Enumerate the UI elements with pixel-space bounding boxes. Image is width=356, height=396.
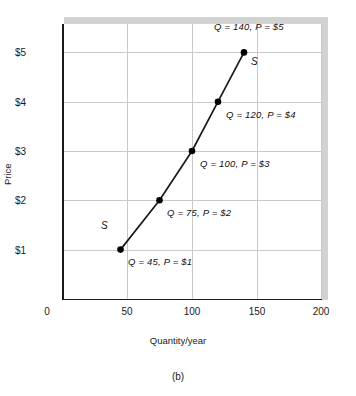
y-tick-label-1: $1 bbox=[15, 244, 26, 255]
data-point-4 bbox=[215, 98, 222, 105]
curve-label-s-upper: S bbox=[251, 56, 258, 67]
y-tick-label-2: $2 bbox=[15, 195, 26, 206]
x-tick-label-200: 200 bbox=[313, 306, 330, 317]
supply-curve-line bbox=[121, 52, 245, 249]
data-point-2 bbox=[156, 197, 163, 204]
x-tick-label-100: 100 bbox=[184, 306, 201, 317]
x-tick-label-50: 50 bbox=[121, 306, 132, 317]
supply-curve-figure: S S Q = 45, P = $1 Q = 75, P = $2 Q = 10… bbox=[0, 0, 356, 396]
annotation-point-3: Q = 100, P = $3 bbox=[200, 158, 270, 169]
annotation-point-4: Q = 120, P = $4 bbox=[226, 109, 296, 120]
data-point-1 bbox=[117, 246, 124, 253]
x-axis-title: Quantity/year bbox=[0, 335, 356, 346]
figure-caption: (b) bbox=[0, 371, 356, 382]
y-tick-label-5: $5 bbox=[15, 47, 26, 58]
plot-area: S S Q = 45, P = $1 Q = 75, P = $2 Q = 10… bbox=[62, 24, 322, 300]
y-tick-label-3: $3 bbox=[15, 146, 26, 157]
x-tick-label-0: 0 bbox=[44, 306, 50, 317]
x-tick-label-150: 150 bbox=[249, 306, 266, 317]
data-point-5 bbox=[241, 49, 248, 56]
y-axis-title: Price bbox=[2, 163, 13, 185]
panel-shadow-right bbox=[321, 17, 328, 300]
annotation-point-5: Q = 140, P = $5 bbox=[214, 21, 284, 32]
panel-shadow-top bbox=[64, 17, 328, 24]
y-tick-label-4: $4 bbox=[15, 96, 26, 107]
annotation-point-2: Q = 75, P = $2 bbox=[167, 207, 231, 218]
data-point-3 bbox=[189, 148, 196, 155]
annotation-point-1: Q = 45, P = $1 bbox=[128, 256, 192, 267]
curve-label-s-lower: S bbox=[101, 220, 108, 231]
